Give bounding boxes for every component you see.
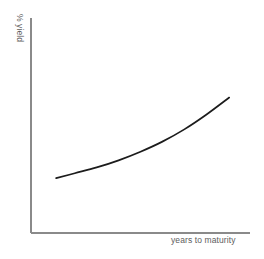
yield-curve-line [56,98,229,179]
y-axis-label: % yield [16,14,25,42]
plot-area [0,0,264,259]
x-axis-label: years to maturity [171,236,236,245]
yield-curve-chart: % yield years to maturity [0,0,264,259]
